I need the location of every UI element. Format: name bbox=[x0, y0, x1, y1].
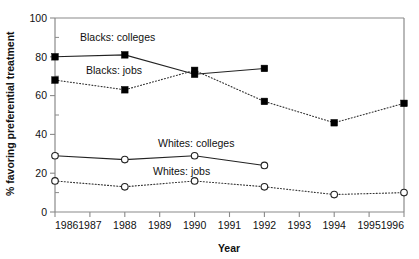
series-line-2 bbox=[55, 156, 264, 166]
x-tick-label: 1993 bbox=[288, 219, 312, 231]
x-tick-label: 1992 bbox=[253, 219, 277, 231]
data-point-marker bbox=[122, 86, 129, 93]
data-point-marker bbox=[401, 189, 408, 196]
data-point-marker bbox=[191, 67, 198, 74]
data-point-marker bbox=[52, 54, 59, 61]
x-axis-tick-labels: 1986198719881989199019911992199319941995… bbox=[55, 219, 404, 231]
y-axis-label: % favoring preferential treatment bbox=[4, 31, 16, 196]
data-point-marker bbox=[331, 191, 338, 198]
series-annotation-label: Whites: colleges bbox=[158, 137, 234, 149]
x-axis-ticks bbox=[55, 212, 404, 217]
data-point-marker bbox=[261, 98, 268, 105]
x-tick-label: 1986 bbox=[55, 219, 79, 231]
data-point-marker bbox=[261, 183, 268, 190]
data-point-marker bbox=[122, 183, 129, 190]
data-point-marker bbox=[52, 77, 59, 84]
x-tick-label: 1990 bbox=[183, 219, 207, 231]
data-point-marker bbox=[191, 152, 198, 159]
series-annotation-label: Blacks: colleges bbox=[80, 31, 155, 43]
x-axis-label: Year bbox=[218, 242, 240, 254]
y-tick-label: 60 bbox=[35, 89, 47, 101]
preferential-treatment-line-chart: 020406080100 198619871988198919901991199… bbox=[0, 0, 419, 259]
x-tick-label: 1996 bbox=[381, 219, 405, 231]
data-point-marker bbox=[191, 178, 198, 185]
y-axis-tick-labels: 020406080100 bbox=[29, 12, 47, 218]
data-point-marker bbox=[52, 178, 59, 185]
x-tick-label: 1995 bbox=[357, 219, 381, 231]
data-point-marker bbox=[261, 162, 268, 169]
y-tick-label: 80 bbox=[35, 51, 47, 63]
series-line-1 bbox=[55, 70, 404, 122]
y-tick-label: 20 bbox=[35, 167, 47, 179]
data-point-marker bbox=[122, 52, 129, 59]
series-annotations: Blacks: collegesBlacks: jobsWhites: coll… bbox=[80, 31, 234, 177]
chart-container: 020406080100 198619871988198919901991199… bbox=[0, 0, 419, 259]
series-line-3 bbox=[55, 181, 404, 195]
data-point-marker bbox=[261, 65, 268, 72]
series-annotation-label: Blacks: jobs bbox=[86, 64, 142, 76]
plot-frame bbox=[55, 18, 404, 212]
x-tick-label: 1987 bbox=[78, 219, 102, 231]
data-point-marker bbox=[331, 119, 338, 126]
y-tick-label: 40 bbox=[35, 128, 47, 140]
data-point-marker bbox=[52, 152, 59, 159]
series-annotation-label: Whites: jobs bbox=[153, 165, 210, 177]
y-tick-label: 100 bbox=[29, 12, 47, 24]
x-tick-label: 1994 bbox=[323, 219, 347, 231]
x-tick-label: 1988 bbox=[113, 219, 137, 231]
x-tick-label: 1991 bbox=[218, 219, 242, 231]
y-tick-label: 0 bbox=[41, 206, 47, 218]
x-tick-label: 1989 bbox=[148, 219, 172, 231]
data-point-marker bbox=[122, 156, 129, 163]
data-point-marker bbox=[401, 100, 408, 107]
